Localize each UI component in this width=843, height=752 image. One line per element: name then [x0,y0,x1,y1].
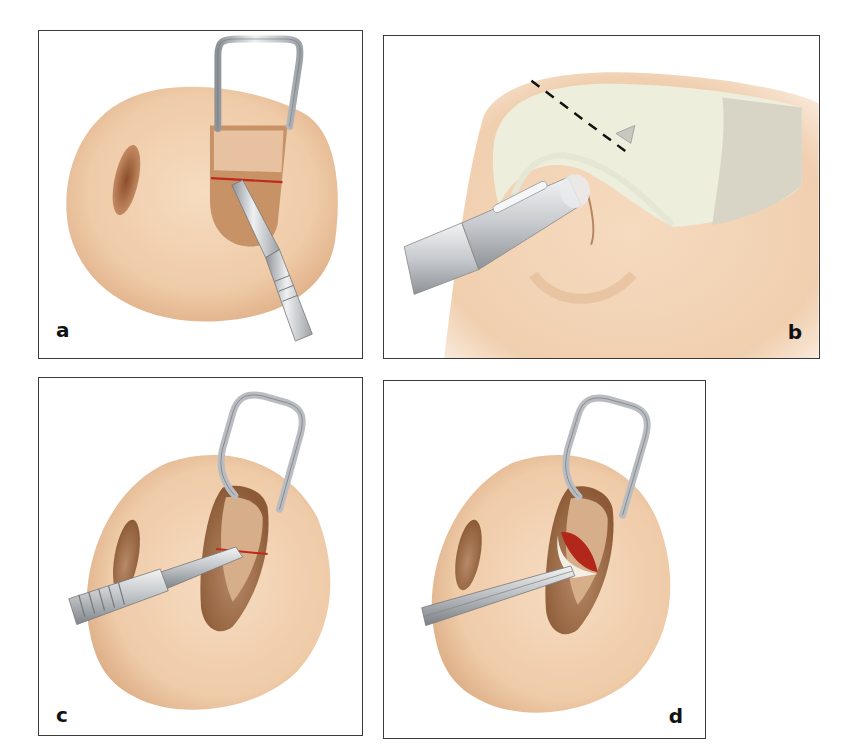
nose-illustration-c [39,378,362,735]
panel-label-d: d [669,706,683,726]
nose-illustration-d [384,381,705,738]
panel-label-b: b [788,322,802,342]
nose-illustration-b [384,36,819,358]
panel-label-a: a [56,320,70,340]
nose-illustration-a [39,31,362,358]
panel-label-c: c [56,705,68,725]
figure-panel-a: a [38,30,363,359]
figure-panel-d: d [383,380,706,739]
figure-panel-b: b [383,35,820,359]
figure-panel-c: c [38,377,363,736]
